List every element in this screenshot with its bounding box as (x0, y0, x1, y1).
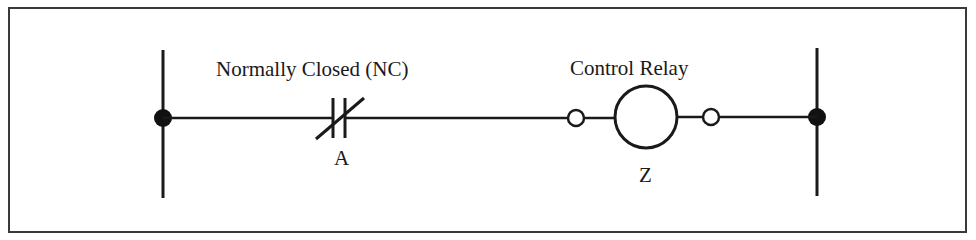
coil-terminal-left-icon (568, 110, 584, 126)
coil-tag-label: Z (639, 165, 652, 186)
contact-tag-label: A (334, 148, 349, 169)
contact-title-label: Normally Closed (NC) (216, 59, 408, 80)
coil-terminal-right-icon (703, 109, 719, 125)
ladder-rung-diagram (0, 0, 976, 240)
relay-coil-icon (615, 86, 677, 148)
coil-title-label: Control Relay (570, 58, 688, 79)
